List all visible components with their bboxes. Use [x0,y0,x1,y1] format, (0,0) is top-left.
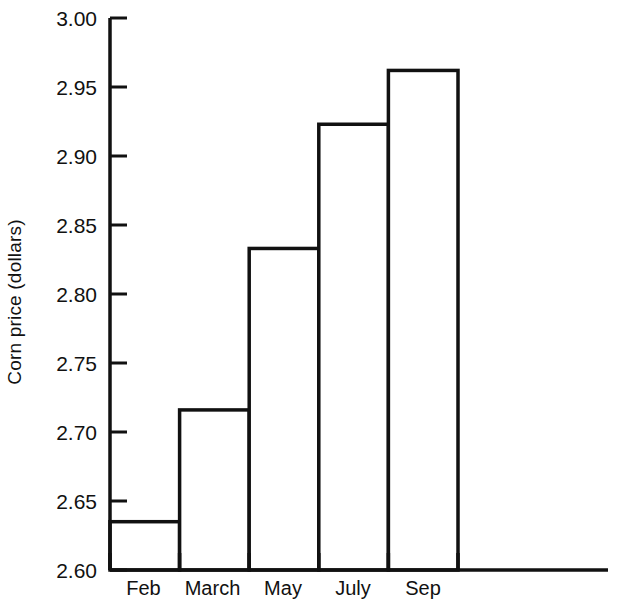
bar-chart: Corn price (dollars) 3.00 2.95 2.90 2.85… [0,0,627,604]
bars-group [110,70,458,570]
y-axis-ticks [110,18,127,570]
bar [110,522,180,570]
plot-area [0,0,627,604]
bar [249,248,319,570]
bar [388,70,458,570]
bar [319,124,389,570]
bar [180,410,250,570]
